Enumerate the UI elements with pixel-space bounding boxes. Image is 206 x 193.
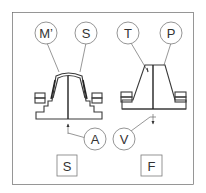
right-block-top [175,92,186,97]
leader-s [80,43,86,72]
right-block-top [92,93,102,98]
caption-f-label: F [148,159,156,174]
right-figure: T P V F [113,22,186,176]
left-block-bottom [35,98,45,103]
diagram-canvas: M’ S A S T P V [0,0,206,193]
left-block-top [35,93,45,98]
leader-m-prime [47,43,59,72]
callout-m-prime-label: M’ [39,26,53,41]
right-block-bottom [92,98,102,103]
callout-s-label: S [82,26,91,41]
down-arrow-icon [152,121,155,125]
left-block-top [121,92,132,97]
leader-v [131,117,150,131]
up-arrow-icon [67,124,70,128]
callout-a-label: A [91,132,100,147]
left-figure: M’ S A S [35,22,106,176]
leader-a [68,133,86,138]
inner-coating-line [53,76,85,99]
callout-t-label: T [124,26,132,41]
caption-s-label: S [63,159,72,174]
callout-v-label: V [120,132,129,147]
callout-p-label: P [167,26,176,41]
leader-p [164,43,171,65]
tick-mark [147,68,148,72]
